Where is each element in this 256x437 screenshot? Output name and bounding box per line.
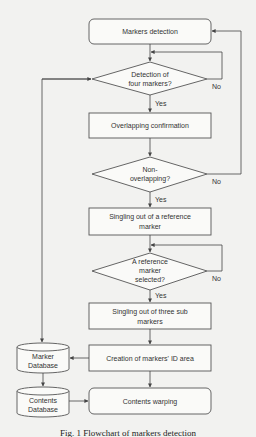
edge-label-no: No (212, 83, 221, 90)
db-label: Contents (29, 397, 58, 404)
node-creation-id-area: Creation of markers' ID area (89, 345, 211, 371)
figure-caption: Fig. 1 Flowchart of markers detection (60, 428, 196, 437)
node-label: Contents warping (123, 398, 178, 406)
db-label: Marker (32, 353, 54, 360)
decision-four-markers: Detection of four markers? (92, 62, 207, 95)
node-label: marker (139, 223, 161, 230)
marker-database: Marker Database (17, 343, 69, 373)
edge-label-no: No (212, 275, 221, 282)
contents-database: Contents Database (17, 387, 69, 417)
node-singling-three-sub: Singling out of three sub markers (89, 303, 211, 329)
edge-label-yes: Yes (155, 196, 167, 203)
edge-label-yes: Yes (155, 100, 167, 107)
decision-label: marker (139, 267, 161, 274)
node-label: Singling out of three sub (112, 308, 188, 316)
node-label: Singling out of a reference (109, 213, 191, 221)
node-contents-warping: Contents warping (89, 388, 211, 414)
node-overlapping-confirmation: Overlapping confirmation (89, 113, 211, 138)
edge-label-yes: Yes (155, 292, 167, 299)
decision-non-overlapping: Non- overlapping? (92, 157, 207, 192)
node-label: Creation of markers' ID area (106, 355, 194, 362)
edge-no-loop2 (207, 31, 241, 174)
decision-reference-selected: A reference marker selected? (92, 253, 207, 290)
node-label: Markers detection (122, 28, 178, 35)
decision-label: A reference (132, 258, 168, 265)
decision-label: Detection of (131, 71, 168, 78)
edge-label-no: No (212, 178, 221, 185)
db-label: Database (28, 406, 58, 413)
decision-label: selected? (135, 276, 165, 283)
node-markers-detection: Markers detection (89, 19, 211, 44)
decision-label: four markers? (128, 80, 171, 87)
node-singling-reference: Singling out of a reference marker (89, 208, 211, 235)
flowchart: Markers detection Detection of four mark… (0, 0, 256, 437)
db-label: Database (28, 362, 58, 369)
node-label: Overlapping confirmation (111, 122, 189, 130)
decision-label: Non- (142, 166, 158, 173)
decision-label: overlapping? (130, 175, 170, 183)
node-label: markers (137, 318, 163, 325)
